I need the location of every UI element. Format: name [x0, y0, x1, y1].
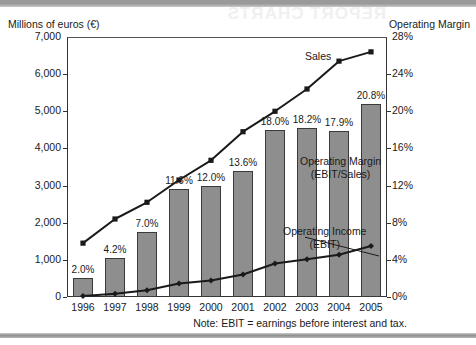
marker-operating-income: [176, 280, 182, 286]
marker-operating-income: [112, 291, 118, 297]
marker-operating-income: [240, 272, 246, 278]
marker-sales: [240, 129, 245, 134]
y-axis-right-tick-label: 8%: [392, 216, 432, 228]
marker-operating-income: [272, 261, 278, 267]
chart-note: Note: EBIT = earnings before interest an…: [150, 317, 450, 329]
annotation-operating-income-line2: (EBIT): [283, 238, 366, 251]
y-axis-right-tick-mark: [387, 297, 391, 298]
y-axis-right-tick-mark: [387, 74, 391, 75]
y-axis-right-tick-label: 12%: [392, 179, 432, 191]
annotation-operating-margin-line1: Operating Margin: [300, 155, 381, 168]
y-axis-right-tick-label: 4%: [392, 253, 432, 265]
marker-sales: [80, 241, 85, 246]
marker-operating-income: [304, 256, 310, 262]
marker-sales: [272, 109, 277, 114]
y-axis-title-left: Millions of euros (€): [8, 18, 100, 30]
y-axis-right-tick-label: 28%: [392, 30, 432, 42]
annotation-operating-income-line1: Operating Income: [283, 225, 366, 238]
marker-operating-income: [368, 243, 374, 249]
y-axis-right-tick-label: 24%: [392, 67, 432, 79]
marker-sales: [208, 158, 213, 163]
marker-sales: [176, 177, 181, 182]
annotation-operating-margin: Operating Margin (EBIT/Sales): [300, 155, 381, 181]
annotation-sales: Sales: [305, 50, 331, 63]
chart-figure: REPORT CHARTS Millions of euros (€) Oper…: [0, 0, 476, 345]
y-axis-left-tick-label: 7,000: [9, 30, 61, 42]
y-axis-left-tick-label: 1,000: [9, 253, 61, 265]
y-axis-left-tick-mark: [63, 297, 67, 298]
page-bleed-through-text: REPORT CHARTS: [186, 4, 386, 22]
y-axis-left-tick-label: 3,000: [9, 179, 61, 191]
y-axis-right-tick-label: 20%: [392, 104, 432, 116]
marker-sales: [336, 59, 341, 64]
annotation-operating-margin-line2: (EBIT/Sales): [300, 168, 381, 181]
x-axis-tick-label: 2005: [351, 301, 391, 313]
y-axis-right-tick-mark: [387, 223, 391, 224]
line-sales: [83, 52, 371, 243]
marker-operating-income: [144, 287, 150, 293]
marker-sales: [112, 216, 117, 221]
marker-sales: [368, 49, 373, 54]
y-axis-left-tick-label: 2,000: [9, 216, 61, 228]
scan-artifact-bottom-margin: [0, 341, 476, 345]
y-axis-right-tick-mark: [387, 148, 391, 149]
y-axis-right-tick-mark: [387, 186, 391, 187]
marker-sales: [304, 86, 309, 91]
y-axis-left-tick-label: 6,000: [9, 67, 61, 79]
line-operating-income: [83, 246, 371, 296]
y-axis-left-tick-label: 0: [9, 290, 61, 302]
annotation-operating-income: Operating Income (EBIT): [283, 225, 366, 251]
scan-artifact-bottom-rule: [0, 333, 476, 338]
y-axis-title-right: Operating Margin: [389, 18, 470, 30]
y-axis-right-tick-label: 0%: [392, 290, 432, 302]
marker-operating-income: [208, 278, 214, 284]
marker-operating-income: [80, 293, 86, 299]
y-axis-right-tick-mark: [387, 260, 391, 261]
y-axis-left-tick-label: 5,000: [9, 104, 61, 116]
y-axis-right-tick-label: 16%: [392, 141, 432, 153]
marker-sales: [144, 200, 149, 205]
y-axis-right-tick-mark: [387, 111, 391, 112]
y-axis-left-tick-label: 4,000: [9, 141, 61, 153]
marker-operating-income: [336, 252, 342, 258]
